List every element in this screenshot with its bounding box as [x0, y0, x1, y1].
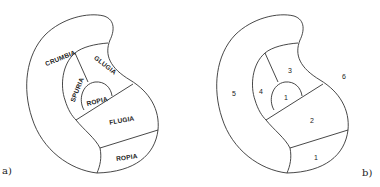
region-label-ropia-inner: ROPIA: [86, 95, 109, 107]
panel-caption-a: a): [2, 165, 12, 176]
panel-a: CRUMBIA GLUGIA SPURIA ROPIA FLUGIA ROPIA…: [2, 15, 158, 176]
region-label-spuria: SPURIA: [69, 76, 85, 103]
region-label-2: 2: [310, 117, 314, 124]
map-coloring-diagram: CRUMBIA GLUGIA SPURIA ROPIA FLUGIA ROPIA…: [0, 0, 380, 187]
region-label-flugia: FLUGIA: [109, 114, 135, 125]
region-label-6: 6: [342, 73, 346, 80]
region-label-3: 3: [288, 67, 292, 74]
region-label-5: 5: [232, 90, 236, 97]
kidney-outline-b: [217, 15, 349, 173]
region-label-4: 4: [259, 88, 263, 95]
region-label-1-inner: 1: [284, 94, 288, 101]
region-label-crumbia: CRUMBIA: [44, 49, 76, 68]
region-label-glugia: GLUGIA: [93, 54, 118, 76]
panel-b: 5 3 4 1 2 1 6 b): [217, 15, 373, 178]
panel-caption-b: b): [362, 167, 372, 178]
region-label-1-outer: 1: [314, 154, 318, 161]
kidney-outline-a: [27, 15, 159, 173]
region-label-ropia-outer: ROPIA: [116, 152, 138, 162]
